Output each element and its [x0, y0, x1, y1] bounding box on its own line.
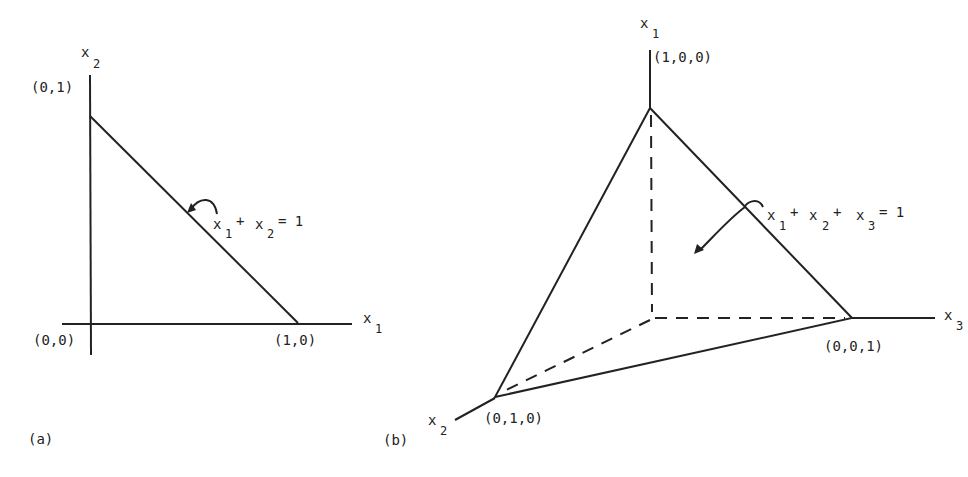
arrowhead-icon [694, 244, 704, 254]
point-0-0-1: (0,0,1) [824, 338, 883, 354]
hidden-x2-axis [500, 320, 650, 393]
x2-axis-label: x [81, 44, 89, 60]
point-0-0: (0,0) [33, 332, 75, 348]
x3-axis-sub: 3 [956, 319, 963, 333]
point-1-0-0: (1,0,0) [653, 49, 712, 65]
svg-text:x: x [809, 207, 817, 223]
simplex-triangle [495, 108, 852, 397]
equation-a: x 1 + x 2 = 1 [213, 213, 303, 241]
svg-text:= 1: = 1 [879, 204, 904, 220]
equation-b: x 1 + x 2 + x 3 = 1 [767, 204, 904, 233]
svg-text:2: 2 [267, 227, 274, 241]
x2-axis-label: x [428, 412, 436, 428]
svg-text:1: 1 [779, 219, 786, 233]
x2-axis-sub: 2 [440, 424, 447, 438]
panel-b: x 1 (1,0,0) x 1 + x 2 + x 3 = 1 (0,0,1) … [383, 15, 963, 448]
pointer-arrow-icon [700, 201, 763, 250]
svg-text:= 1: = 1 [278, 213, 303, 229]
x1-axis-label: x [363, 310, 371, 326]
svg-text:+: + [833, 204, 841, 220]
svg-text:+: + [236, 213, 244, 229]
caption-a: (a) [28, 431, 53, 447]
simplex-line [90, 116, 298, 323]
x2-axis-sub: 2 [93, 57, 100, 71]
svg-text:x: x [767, 207, 775, 223]
svg-text:x: x [856, 207, 864, 223]
hidden-x1-axis [651, 115, 652, 312]
point-1-0: (1,0) [274, 332, 316, 348]
svg-text:2: 2 [822, 219, 829, 233]
pointer-arrow-icon [190, 200, 217, 214]
x1-axis-sub: 1 [652, 27, 659, 41]
panel-a: x 2 (0,1) (0,0) (1,0) x 1 x 1 + x 2 = 1 … [28, 44, 382, 447]
x1-axis-label: x [640, 15, 648, 31]
x3-axis-label: x [944, 307, 952, 323]
caption-b: (b) [383, 432, 408, 448]
point-0-1: (0,1) [31, 79, 73, 95]
svg-text:x: x [255, 216, 263, 232]
simplex-diagram: x 2 (0,1) (0,0) (1,0) x 1 x 1 + x 2 = 1 … [0, 0, 968, 477]
svg-text:+: + [790, 204, 798, 220]
svg-text:x: x [213, 216, 221, 232]
point-0-1-0: (0,1,0) [484, 410, 543, 426]
x1-axis-sub: 1 [375, 322, 382, 336]
svg-text:3: 3 [868, 219, 875, 233]
svg-text:1: 1 [225, 227, 232, 241]
